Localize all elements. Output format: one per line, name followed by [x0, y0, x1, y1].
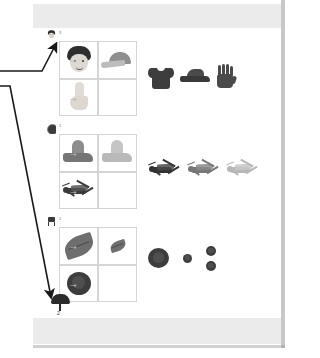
row-2-cell-bottom-right[interactable] [98, 172, 137, 210]
grasshopper-light-icon [226, 160, 260, 178]
row-1-cell-bottom-left[interactable] [59, 79, 98, 117]
row-2-option-hopper-medium[interactable] [187, 160, 221, 178]
row-3-cell-top-left[interactable] [59, 227, 98, 265]
grasshopper-medium-icon [187, 160, 221, 178]
arrow-right-icon: ➝ [69, 58, 77, 66]
arrow-right-icon: ➝ [69, 151, 77, 159]
row-3-option-flower-small[interactable] [183, 254, 192, 263]
arrow-right-icon: ➝ [69, 282, 77, 290]
glove-icon [216, 64, 235, 89]
flower-small-icon [183, 254, 192, 263]
row-1-option-glove[interactable] [216, 64, 235, 89]
worksheet-row-1: 3 ➝ ➝ [33, 28, 281, 121]
cap-icon [101, 52, 135, 68]
row-2-cell-top-right[interactable] [98, 134, 137, 172]
flower-small-icon [206, 261, 216, 271]
shoe-icon [180, 68, 210, 84]
row-1-prompt-grid [59, 41, 137, 116]
row-1-cell-top-left[interactable] [59, 41, 98, 79]
row-3-cell-bottom-right[interactable] [98, 265, 137, 303]
page-header-band [33, 4, 281, 28]
row-1-marker[interactable]: 3 [47, 30, 61, 41]
row-3-marker[interactable]: 1 [47, 216, 61, 227]
grasshopper-dark-icon [148, 160, 182, 178]
row-3-option-flower-pair[interactable] [206, 246, 216, 271]
flower-small-icon [206, 246, 216, 256]
arrow-right-icon: ➝ [69, 96, 77, 104]
row-3-marker-count: 1 [59, 216, 61, 222]
page-edge-shadow-bottom [33, 345, 285, 348]
boy-head-icon [64, 45, 94, 75]
row-2-cell-bottom-left[interactable] [59, 172, 98, 210]
arrow-right-icon: ➝ [69, 189, 77, 197]
row-3-option-flower-large[interactable] [148, 248, 169, 268]
row-2-option-strip [148, 139, 266, 199]
worksheet-page: 3 ➝ ➝ [33, 0, 281, 346]
row-1-option-shoe[interactable] [180, 68, 210, 84]
row-2-prompt-grid [59, 134, 137, 209]
row-2-option-hopper-light[interactable] [226, 160, 260, 178]
thumbnail-icon [47, 30, 56, 41]
dark-shape-icon [62, 140, 96, 166]
row-1-option-tshirt[interactable] [148, 64, 174, 89]
tshirt-icon [148, 64, 174, 89]
row-1-option-strip [148, 46, 266, 106]
footer-marker-count: 2 [57, 310, 60, 316]
page-footer-band [33, 318, 281, 344]
row-3-prompt-grid [59, 227, 137, 302]
chair-icon [47, 216, 56, 227]
page-edge-shadow-right [281, 0, 285, 348]
row-2-option-hopper-dark[interactable] [148, 160, 182, 178]
leaf-small-icon [110, 241, 126, 251]
flower-large-icon [148, 248, 169, 268]
row-1-cell-top-right[interactable] [98, 41, 137, 79]
light-shape-icon [101, 140, 135, 166]
row-3-cell-top-right[interactable] [98, 227, 137, 265]
row-1-marker-count: 3 [59, 30, 61, 36]
row-2-marker[interactable]: 1 [47, 123, 61, 134]
worksheet-row-2: 1 [33, 121, 281, 214]
row-3-option-strip [148, 228, 266, 288]
row-2-cell-top-left[interactable] [59, 134, 98, 172]
row-2-marker-count: 1 [59, 123, 61, 129]
leaf-large-icon [64, 236, 94, 256]
circle-icon [47, 123, 56, 134]
arrow-right-icon: ➝ [69, 244, 77, 252]
grasshopper-dark-icon [62, 181, 96, 199]
row-1-cell-bottom-right[interactable] [98, 79, 137, 117]
umbrella-marker[interactable]: 2 [49, 292, 73, 318]
